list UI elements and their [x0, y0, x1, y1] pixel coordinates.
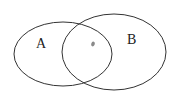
intersection-marker: [90, 41, 95, 47]
set-b-ellipse: [62, 14, 166, 90]
set-b-label: B: [127, 32, 136, 47]
venn-diagram: A B: [0, 0, 173, 105]
set-a-label: A: [36, 36, 47, 51]
set-a-ellipse: [14, 22, 112, 86]
